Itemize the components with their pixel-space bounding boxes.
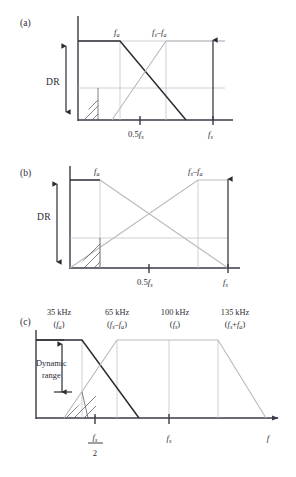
svg-text:fs–fa: fs–fa [152, 27, 167, 38]
svg-text:fs–fa: fs–fa [188, 166, 203, 177]
panel-b: (b) DR fa [20, 166, 240, 292]
panel-a-dr-label: DR [46, 76, 60, 87]
panel-c-fa-paren: (fa) [54, 320, 65, 330]
panel-c-fsfa-paren: (fs–fa) [107, 320, 127, 330]
panel-c-xtick-label-fs-over-2: fs 2 [88, 432, 103, 458]
panel-a-half-sub: s [141, 133, 144, 140]
panel-c: (c) Dynamic range [20, 308, 278, 458]
panel-c-dynamic-label-line2: range [42, 371, 61, 380]
signal-spectrum-figure: (a) DR fa [0, 0, 296, 477]
panel-b-fs-sub: s [225, 281, 228, 288]
panel-a-fs-sub: s [210, 133, 213, 140]
svg-text:fa: fa [94, 166, 99, 177]
svg-text:0.5fs: 0.5fs [128, 129, 144, 140]
panel-b-half-prefix: 0.5 [137, 277, 148, 287]
panel-c-annotation-fs-minus-fa: 65 kHz (fs–fa) [105, 308, 130, 330]
panel-b-fsfa-sub-b: a [200, 170, 203, 177]
panel-a-fsfa-sub-b: a [164, 31, 167, 38]
svg-text:fa: fa [114, 27, 119, 38]
panel-b-label-fs-minus-fa: fs–fa [188, 166, 203, 177]
panel-c-fsfa-freq: 65 kHz [105, 308, 130, 317]
panel-c-fa-freq: 35 kHz [47, 308, 72, 317]
panel-c-fs-tick-sub: s [169, 437, 172, 444]
figure-container: (a) DR fa [0, 0, 296, 477]
panel-b-alias-trace [70, 180, 228, 268]
panel-c-alias-image-trace [64, 340, 266, 418]
panel-c-fspfa-freq: 135 kHz [221, 308, 250, 317]
panel-a-signal-trace [78, 41, 186, 120]
svg-text:fs: fs [93, 432, 98, 443]
panel-b-noise-hatch [64, 234, 112, 292]
panel-b-label: (b) [20, 168, 31, 179]
panel-c-f-label: f [267, 433, 271, 443]
panel-c-annotation-fs-plus-fa: 135 kHz (fs+fa) [221, 308, 250, 330]
panel-c-annotation-fa: 35 kHz (fa) [47, 308, 72, 330]
panel-b-signal-skirt [100, 180, 228, 268]
svg-text:fs: fs [223, 277, 228, 288]
panel-c-frac-denom: 2 [93, 448, 97, 458]
panel-a: (a) DR fa [20, 16, 233, 144]
panel-c-fs-paren: (fs) [170, 320, 181, 330]
panel-c-xtick-label-fs: fs [167, 433, 172, 444]
panel-c-label: (c) [20, 317, 31, 328]
panel-c-fspfa-paren: (fs+fa) [225, 320, 246, 330]
panel-a-label-fs-minus-fa: fs–fa [152, 27, 167, 38]
panel-c-annotation-fs: 100 kHz (fs) [161, 308, 190, 330]
panel-a-xtick-label-fs: fs [208, 129, 213, 140]
panel-c-dynamic-label-line1: Dynamic [36, 359, 67, 368]
panel-b-half-sub: s [150, 281, 153, 288]
svg-text:fs: fs [208, 129, 213, 140]
panel-a-half-prefix: 0.5 [128, 129, 139, 139]
panel-b-xtick-label-fs: fs [223, 277, 228, 288]
panel-a-xtick-label-half-fs: 0.5fs [128, 129, 144, 140]
panel-b-xtick-label-half-fs: 0.5fs [137, 277, 153, 288]
svg-text:0.5fs: 0.5fs [137, 277, 153, 288]
panel-a-fa-sub: a [116, 31, 119, 38]
svg-text:fs: fs [167, 433, 172, 444]
panel-a-label: (a) [20, 18, 31, 29]
panel-a-label-fa: fa [114, 27, 119, 38]
panel-c-fs-freq: 100 kHz [161, 308, 190, 317]
panel-b-label-fa: fa [94, 166, 99, 177]
panel-b-dr-label: DR [37, 211, 51, 222]
panel-c-frac-numer-sub: s [95, 436, 98, 443]
panel-b-fa-sub: a [96, 170, 99, 177]
panel-c-x-axis-label: f [267, 433, 271, 443]
